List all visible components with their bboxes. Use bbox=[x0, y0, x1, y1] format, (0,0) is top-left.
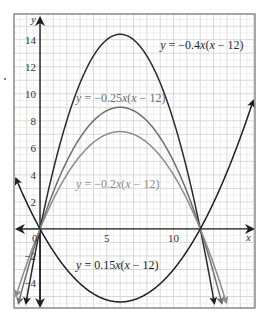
curve-arrow-head bbox=[213, 297, 214, 303]
y-tick-label: −4 bbox=[24, 277, 36, 289]
x-tick-label: 10 bbox=[168, 232, 180, 244]
curve-arrow-head bbox=[16, 292, 17, 295]
equation-label-0: y = −0.4x(x − 12) bbox=[159, 38, 243, 52]
x-tick-label: 0 bbox=[32, 232, 38, 244]
y-tick-label: 6 bbox=[31, 142, 37, 154]
y-tick-label: 4 bbox=[31, 169, 37, 181]
curve-arrow-head bbox=[16, 179, 17, 182]
x-tick-label: 5 bbox=[104, 232, 110, 244]
equation-label-1: y = −0.25x(x − 12) bbox=[75, 91, 165, 105]
curve-arrow-head bbox=[252, 101, 253, 104]
y-tick-label: 8 bbox=[31, 115, 37, 127]
curve-arrow-head bbox=[19, 299, 20, 303]
curve-arrow-head bbox=[225, 299, 226, 302]
y-tick-label: 2 bbox=[31, 196, 37, 208]
quadratic-family-chart: yx05101412108642−2−4 y = −0.4x(x − 12)y … bbox=[0, 0, 267, 321]
equation-label-3: y = 0.15x(x − 12) bbox=[75, 258, 159, 272]
y-tick-label: 14 bbox=[25, 34, 37, 46]
y-axis-label: y bbox=[30, 13, 36, 25]
curve-arrow-head bbox=[26, 297, 27, 303]
equation-label-2: y = −0.2x(x − 12) bbox=[75, 177, 159, 191]
y-tick-label: 12 bbox=[25, 61, 36, 73]
curve-2 bbox=[16, 132, 226, 301]
y-tick-label: 10 bbox=[25, 88, 37, 100]
x-axis-label: x bbox=[245, 231, 251, 243]
y-tick-label: −2 bbox=[24, 250, 36, 262]
curve-arrow-head bbox=[221, 299, 222, 303]
